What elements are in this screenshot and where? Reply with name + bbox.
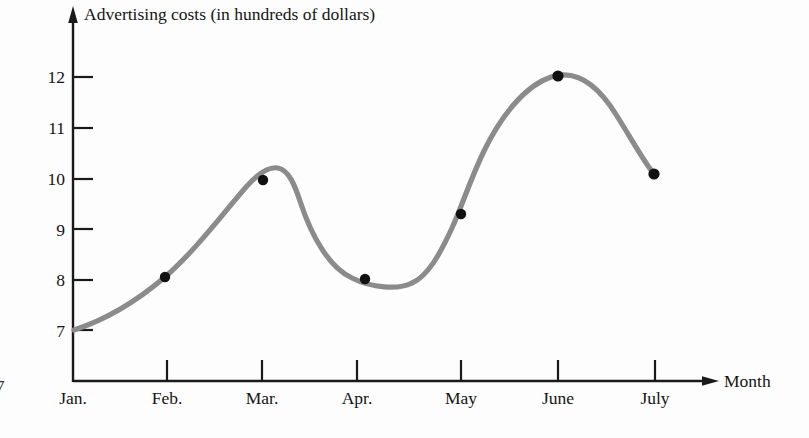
data-point-apr [360, 274, 370, 284]
x-tick-label-jan: Jan. [59, 388, 87, 408]
x-tick-label-feb: Feb. [152, 388, 183, 408]
x-axis-ticks [167, 360, 655, 381]
line-chart-canvas: Advertising costs (in hundreds of dollar… [0, 0, 809, 438]
y-tick-label-11: 11 [48, 118, 65, 138]
y-tick-label-9: 9 [56, 220, 65, 240]
margin-page-mark: 7 [0, 377, 5, 396]
data-point-july [648, 168, 659, 179]
x-tick-label-july: July [640, 388, 669, 408]
x-tick-label-may: May [445, 388, 477, 408]
y-axis-title: Advertising costs (in hundreds of dollar… [84, 4, 375, 24]
data-point-mar [258, 175, 268, 185]
data-point-may [456, 209, 466, 219]
chart-figure: Advertising costs (in hundreds of dollar… [0, 0, 809, 438]
x-axis-arrowhead [702, 376, 719, 386]
y-axis-arrowhead [68, 6, 78, 23]
y-axis [68, 6, 78, 382]
x-tick-label-june: June [542, 388, 574, 408]
advertising-costs-curve [74, 75, 654, 330]
data-point-feb [160, 272, 170, 282]
x-axis [73, 376, 719, 386]
x-tick-label-apr: Apr. [342, 388, 373, 408]
y-tick-label-12: 12 [48, 67, 66, 87]
y-tick-label-10: 10 [48, 169, 66, 189]
x-axis-title: Month [724, 371, 771, 391]
y-axis-ticks [73, 77, 93, 330]
data-point-june [552, 70, 563, 81]
x-tick-label-mar: Mar. [246, 388, 279, 408]
y-tick-labels: 12 11 10 9 8 7 [48, 67, 66, 341]
data-point-markers [160, 70, 660, 284]
x-tick-labels: Jan. Feb. Mar. Apr. May June July [59, 388, 670, 408]
y-tick-label-7: 7 [56, 321, 65, 341]
y-tick-label-8: 8 [56, 270, 65, 290]
